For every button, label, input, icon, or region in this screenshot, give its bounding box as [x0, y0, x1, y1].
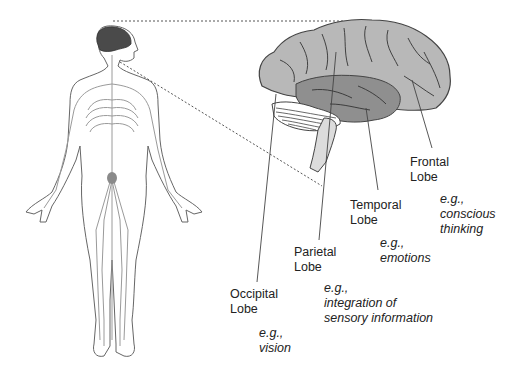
frontal-lobe-eg: e.g., [440, 192, 496, 207]
parietal-lobe-name-line2: Lobe [294, 260, 336, 275]
parietal-lobe-name-line1: Parietal [294, 245, 336, 260]
temporal-lobe-example: e.g., emotions [380, 236, 431, 266]
occipital-lobe-example-line1: vision [259, 341, 291, 356]
sacral-plexus [107, 172, 117, 184]
frontal-lobe-example: e.g., conscious thinking [440, 192, 496, 237]
temporal-lobe-eg: e.g., [380, 236, 431, 251]
frontal-lobe-name-line2: Lobe [410, 170, 449, 185]
parietal-lobe-example: e.g., integration of sensory information [324, 281, 433, 326]
parietal-lobe-example-line1: integration of [324, 296, 433, 311]
occipital-lobe-example: e.g., vision [259, 326, 291, 356]
frontal-lobe-example-line1: conscious [440, 207, 496, 222]
nervous-system-illustration [0, 0, 524, 380]
brain-lateral-view [259, 19, 450, 172]
parietal-lobe-eg: e.g., [324, 281, 433, 296]
occipital-lobe-label: Occipital Lobe [230, 287, 278, 317]
temporal-lobe-name-line1: Temporal [350, 198, 401, 213]
occipital-lobe-name-line2: Lobe [230, 302, 278, 317]
parietal-lobe-example-line2: sensory information [324, 311, 433, 326]
occipital-lobe-name-line1: Occipital [230, 287, 278, 302]
frontal-lobe-example-line2: thinking [440, 222, 496, 237]
occipital-leader-line [257, 94, 276, 282]
temporal-lobe-label: Temporal Lobe [350, 198, 401, 228]
temporal-lobe-name-line2: Lobe [350, 213, 401, 228]
temporal-lobe-example-line1: emotions [380, 251, 431, 266]
frontal-lobe-label: Frontal Lobe [410, 155, 449, 185]
occipital-lobe-eg: e.g., [259, 326, 291, 341]
frontal-lobe-name-line1: Frontal [410, 155, 449, 170]
parietal-lobe-label: Parietal Lobe [294, 245, 336, 275]
